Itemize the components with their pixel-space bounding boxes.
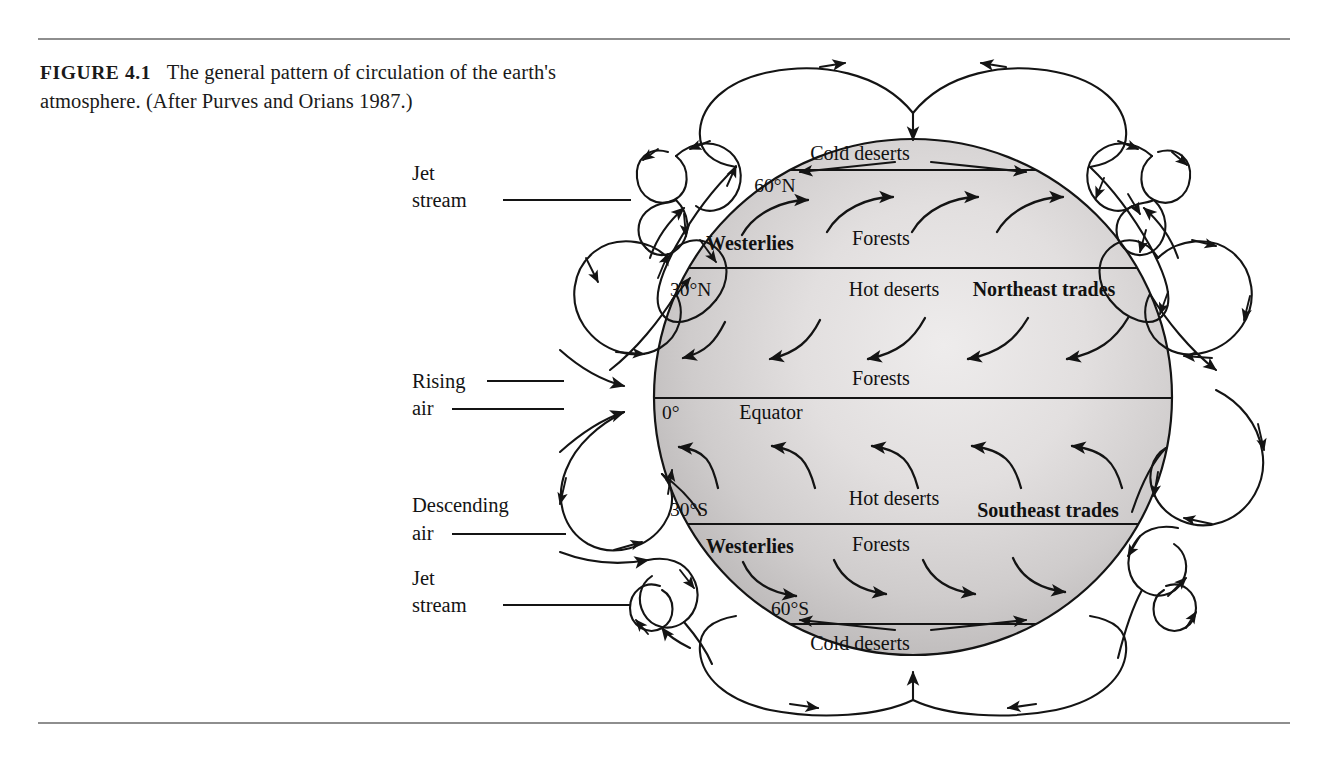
- rising-air-line1: Rising: [412, 370, 466, 393]
- jet-stream-north-line2: stream: [412, 189, 467, 211]
- jet-stream-north-line1: Jet: [412, 162, 435, 184]
- globe: [654, 139, 1172, 655]
- hadley-north-right-arrow-b: [1184, 356, 1212, 358]
- rising-air-line2: air: [412, 397, 434, 419]
- label-cold-deserts-south: Cold deserts: [810, 632, 910, 654]
- descending-air-line2: air: [412, 522, 434, 544]
- polar-cell-north-left-arrow: [820, 63, 845, 67]
- ferrel-cell-south-right-b: [1142, 544, 1186, 596]
- jet-stream-south-line1: Jet: [412, 567, 435, 589]
- descending-air-arrow: [560, 552, 648, 563]
- jet-stream-vortex-north-right: [1141, 151, 1190, 203]
- label-lat-60n: 60°N: [754, 175, 795, 196]
- hadley-north-left-arrow-a: [586, 258, 598, 282]
- ferrel-south-left-arrow: [680, 570, 694, 588]
- figure-root: FIGURE 4.1 The general pattern of circul…: [0, 0, 1328, 759]
- polar-cell-north-right-arrow: [981, 63, 1006, 67]
- label-westerlies-south: Westerlies: [706, 535, 794, 557]
- label-forests-north-mid: Forests: [852, 367, 910, 389]
- label-lat-30n: 30°N: [670, 279, 711, 300]
- label-cold-deserts-north: Cold deserts: [810, 142, 910, 164]
- polar-cell-south-right-arrow: [1008, 704, 1036, 708]
- label-lat-30s: 30°S: [670, 499, 708, 520]
- label-hot-deserts-south: Hot deserts: [849, 487, 940, 509]
- label-westerlies-north: Westerlies: [706, 232, 794, 254]
- label-forests-north-polar: Forests: [852, 227, 910, 249]
- label-southeast-trades: Southeast trades: [977, 499, 1119, 521]
- label-hot-deserts-north: Hot deserts: [849, 278, 940, 300]
- rising-air-arrow-upper: [560, 350, 624, 386]
- jet-stream-south-left-feed: [662, 628, 690, 648]
- ferrel-cell-south-left-b: [640, 576, 684, 628]
- descending-air-line1: Descending: [412, 494, 509, 517]
- polar-cell-south-left-arrow: [790, 704, 818, 708]
- jet-stream-south-line2: stream: [412, 594, 467, 616]
- ferrel-cell-south-right-a: [1128, 527, 1178, 590]
- se-outflow: [1118, 590, 1142, 658]
- ne-inflow-arrow: [1144, 208, 1178, 258]
- jet-stream-vortex-south-left: [630, 584, 673, 630]
- nw-inflow-arrow: [650, 208, 684, 258]
- label-equator: Equator: [739, 401, 803, 424]
- label-forests-south: Forests: [852, 533, 910, 555]
- label-lat-0: 0°: [662, 402, 680, 423]
- label-northeast-trades: Northeast trades: [973, 278, 1116, 300]
- jet-stream-vortex-south-right-arrow: [1186, 612, 1196, 628]
- label-lat-60s: 60°S: [771, 598, 809, 619]
- atmospheric-circulation-diagram: Jet stream Rising air Descending air Jet…: [0, 0, 1328, 759]
